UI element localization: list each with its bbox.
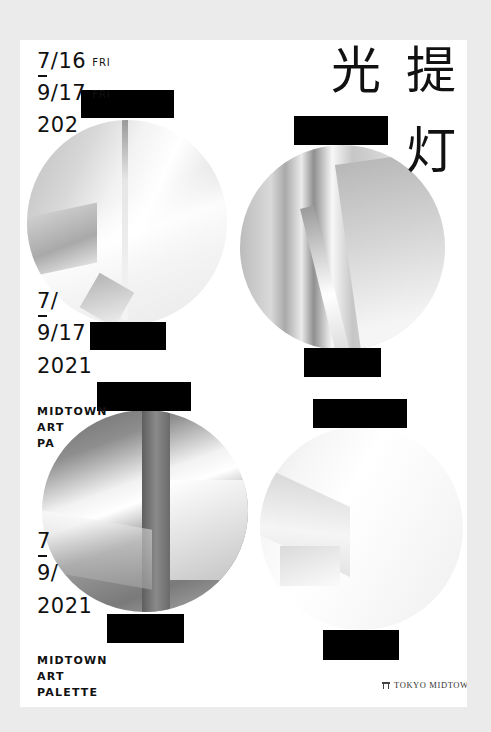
year: 202: [37, 115, 79, 136]
torii-gate-icon: [382, 682, 390, 689]
end-date-3: 9/: [37, 563, 58, 584]
date-dash: [38, 75, 47, 77]
lantern-shard: [27, 203, 97, 278]
title-kanji-hikari: 光: [331, 46, 381, 96]
year-3: 2021: [37, 596, 92, 617]
lantern-bottom-right-top-cap: [313, 399, 407, 428]
lantern-bottom-right: [260, 426, 463, 630]
end-date: 9/17FRI: [37, 83, 111, 104]
title-kanji-sage: 提: [406, 46, 456, 96]
date-dash-3: [38, 555, 47, 557]
title-kanji-tou: 灯: [406, 126, 456, 176]
lantern-bottom-right-bottom-cap: [323, 630, 399, 660]
lantern-bottom-left-top-cap: [97, 382, 191, 411]
lantern-top-right-bottom-cap: [304, 348, 381, 377]
poster: 光 提 灯 7/16FRI 9/17FRI 202 7/ 9/17 2021 M…: [20, 40, 467, 707]
lantern-top-left-bottom-cap: [90, 322, 166, 350]
lantern-shard: [300, 206, 350, 350]
event-name-2: MIDTOWN ART PA: [37, 404, 108, 452]
year-2: 2021: [37, 356, 92, 377]
start-date-value: 7/16: [37, 49, 86, 73]
start-date-3: 7: [37, 531, 51, 552]
end-day: FRI: [92, 89, 111, 100]
end-date-2: 9/17: [37, 323, 86, 344]
lantern-shard: [42, 510, 152, 589]
start-day: FRI: [92, 57, 111, 68]
lantern-shard: [170, 480, 248, 580]
lantern-top-right-top-cap: [294, 116, 388, 145]
logo-text: TOKYO MIDTOWN: [394, 680, 467, 690]
tokyo-midtown-logo: TOKYO MIDTOWN: [382, 680, 467, 690]
start-date-2: 7/: [37, 291, 58, 312]
start-date: 7/16FRI: [37, 51, 111, 72]
end-date-value: 9/17: [37, 81, 86, 105]
event-name-3: MIDTOWN ART PALETTE: [37, 653, 108, 701]
lantern-bottom-left-bottom-cap: [107, 614, 184, 643]
lantern-shard: [280, 546, 340, 586]
date-dash-2: [38, 315, 47, 317]
